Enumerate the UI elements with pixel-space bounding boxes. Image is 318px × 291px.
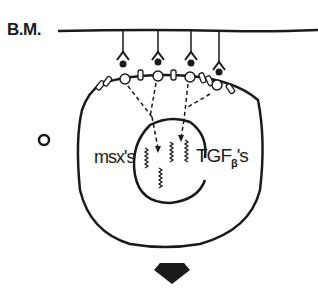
nucleus [134,119,205,203]
ligand-chevrons [117,52,225,70]
receptor-stalks [123,31,219,62]
msx-label: msx's [94,147,134,168]
diagram-canvas [0,0,318,291]
tgf-suffix: 's [237,145,248,166]
genes [145,140,188,188]
tgf-label: TGFβ's [196,145,248,169]
basement-membrane-label: B.M. [7,20,41,40]
tgf-main: TGF [196,145,231,166]
down-arrow-icon [154,263,190,284]
basement-membrane-line [58,30,318,31]
small-circle-marker [39,135,49,145]
